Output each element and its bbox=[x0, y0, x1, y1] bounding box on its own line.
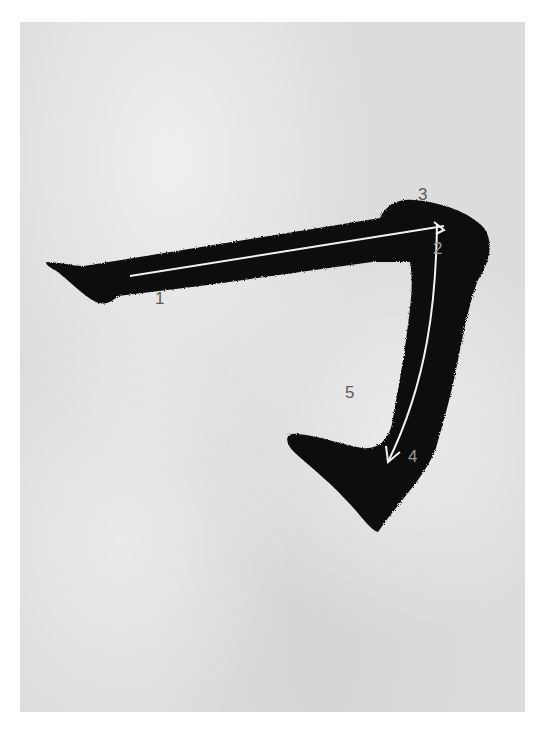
diagram-frame: 1 2 3 4 5 bbox=[0, 0, 539, 733]
label-5: 5 bbox=[345, 383, 354, 402]
ink-stroke bbox=[46, 200, 490, 532]
label-4: 4 bbox=[408, 447, 417, 466]
label-3: 3 bbox=[418, 185, 427, 204]
label-2: 2 bbox=[433, 239, 442, 258]
stroke-diagram: 1 2 3 4 5 bbox=[0, 0, 539, 733]
label-1: 1 bbox=[155, 289, 164, 308]
